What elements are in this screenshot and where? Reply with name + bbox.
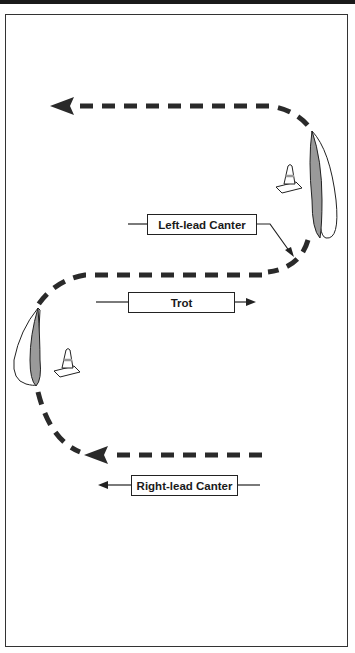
right-lead-arrow-icon [98,481,108,489]
arrow-head-top-icon [50,97,74,115]
right-lead-canter-label: Right-lead Canter [131,475,238,496]
path-right-curve [268,240,308,272]
trot-label: Trot [128,292,235,313]
path-top-segment [80,106,310,128]
trot-arrow-icon [246,298,256,306]
path-left-curve [38,392,80,452]
shrub-left-icon [14,308,41,386]
cone-right-icon [276,165,302,194]
left-lead-arrow-icon [285,247,294,257]
left-lead-canter-label: Left-lead Canter [147,214,257,235]
left-lead-line-right [257,224,290,252]
cone-left-icon [54,349,80,378]
arrow-head-bottom-icon [84,446,108,464]
shrub-right-icon [310,131,337,238]
riding-pattern-diagram [0,0,355,653]
